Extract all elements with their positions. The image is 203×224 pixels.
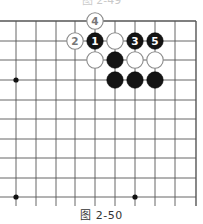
figure-caption: 图 2-50 — [0, 206, 203, 222]
move-number-label: 1 — [91, 35, 98, 47]
white-stone — [147, 52, 163, 68]
white-stone: 4 — [87, 13, 103, 29]
black-stone: 1 — [87, 33, 103, 49]
move-number-label: 4 — [91, 15, 98, 27]
black-stone — [127, 72, 143, 88]
white-stone — [107, 33, 123, 49]
move-number-label: 5 — [151, 35, 158, 47]
move-number-label: 2 — [71, 35, 78, 47]
go-board: 42135 — [0, 0, 203, 224]
white-stone — [127, 52, 143, 68]
star-point-icon — [132, 194, 137, 199]
black-stone — [107, 72, 123, 88]
star-point-icon — [13, 77, 18, 82]
black-stone: 3 — [127, 33, 143, 49]
black-stone: 5 — [147, 33, 163, 49]
star-point-icon — [13, 194, 18, 199]
white-stone — [87, 52, 103, 68]
white-stone: 2 — [67, 33, 83, 49]
move-number-label: 3 — [131, 35, 138, 47]
star-points — [13, 77, 137, 199]
black-stone — [107, 52, 123, 68]
black-stone — [147, 72, 163, 88]
